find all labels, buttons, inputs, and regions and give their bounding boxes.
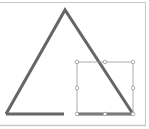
resize-handle-mid-left[interactable] bbox=[75, 86, 79, 90]
resize-handle-top-mid[interactable] bbox=[103, 60, 107, 64]
resize-handle-top-left[interactable] bbox=[75, 60, 79, 64]
resize-handle-bottom-left[interactable] bbox=[75, 112, 79, 116]
resize-handle-mid-right[interactable] bbox=[131, 86, 135, 90]
drawing-canvas[interactable] bbox=[0, 0, 149, 129]
resize-handle-bottom-right[interactable] bbox=[131, 112, 135, 116]
selection-box[interactable] bbox=[0, 0, 149, 129]
resize-handle-bottom-mid[interactable] bbox=[103, 112, 107, 116]
resize-handle-top-right[interactable] bbox=[131, 60, 135, 64]
selection-outline bbox=[77, 62, 133, 114]
